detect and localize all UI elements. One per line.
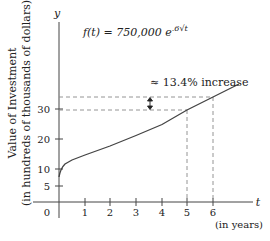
y-tick-30: 30 [37,104,50,115]
x-axis-unit: (in years) [215,219,263,230]
investment-curve [59,84,239,177]
increase-annotation: ≈ 13.4% increase [150,76,248,89]
formula: f(t) = 750,000 e.6√t [82,24,189,39]
x-tick-6: 6 [210,207,216,218]
reference-lines [59,97,213,202]
x-tick-3: 3 [133,207,139,218]
x-tick-4: 4 [159,207,165,218]
x-tick-2: 2 [107,207,113,218]
y-axis-title-line1: Value of Investment [6,47,19,160]
y-tick-10: 10 [37,164,50,175]
increase-arrow [148,98,153,110]
y-axis-title-line2: (in hundreds of thousands of dollars) [20,0,33,206]
y-axis-variable: y [53,7,61,20]
origin-label: 0 [44,207,50,218]
chart: Value of Investment (in hundreds of thou… [0,0,270,241]
x-tick-5: 5 [184,207,190,218]
x-axis-variable: t [256,196,261,209]
formula-exponent: .6√t [172,24,189,33]
formula-lhs: f(t) = 750,000 e [82,26,172,39]
y-tick-20: 20 [37,134,50,145]
x-tick-1: 1 [82,207,88,218]
y-tick-5: 5 [44,181,50,192]
